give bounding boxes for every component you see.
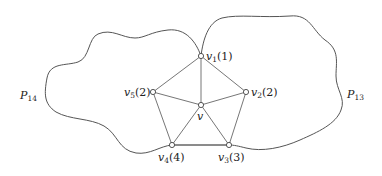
region-p13-boundary bbox=[201, 16, 342, 150]
vertex-v1 bbox=[198, 53, 203, 58]
graph-diagram: v1(1) v2(2) v3(3) v4(4) v5(2) v P14 P13 bbox=[0, 0, 382, 176]
label-region-p13: P13 bbox=[346, 88, 364, 102]
vertex-v5 bbox=[150, 89, 155, 94]
label-center-v: v bbox=[197, 110, 204, 123]
label-v1: v1(1) bbox=[206, 50, 233, 64]
vertex-center-v bbox=[198, 102, 203, 107]
label-v4: v4(4) bbox=[158, 151, 185, 165]
label-v5: v5(2) bbox=[124, 86, 151, 100]
graph-edges bbox=[153, 56, 246, 145]
vertex-v4 bbox=[169, 142, 174, 147]
label-v2: v2(2) bbox=[251, 86, 278, 100]
label-region-p14: P14 bbox=[19, 89, 37, 103]
vertex-v3 bbox=[226, 142, 231, 147]
label-v3: v3(3) bbox=[218, 151, 245, 165]
vertex-v2 bbox=[243, 89, 248, 94]
